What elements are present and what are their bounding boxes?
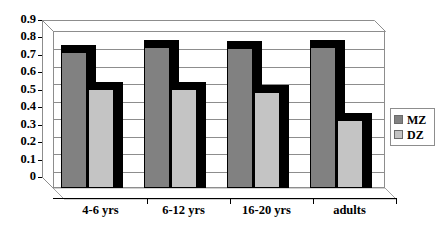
bar-dz-1: [88, 82, 114, 188]
y-axis-tick-label: 0.5: [2, 83, 36, 95]
y-axis-tick-label: 0.1: [2, 153, 36, 165]
x-axis-tick-label: adults: [305, 203, 395, 218]
y-axis-tick-label: 0.7: [2, 48, 36, 60]
legend-item-dz[interactable]: DZ: [394, 127, 431, 142]
bar-mz-3: [227, 41, 253, 188]
bar-top-cap: [337, 113, 363, 120]
bar-top-cap: [310, 40, 336, 47]
bar-mz-4: [310, 40, 336, 188]
y-axis-tick-label: 0.9: [2, 13, 36, 25]
bar-dz-4: [337, 113, 363, 188]
legend-swatch-mz: [394, 115, 403, 124]
bar-side: [280, 85, 289, 188]
bar-face: [144, 47, 170, 188]
bar-chart: 0.90.80.70.60.50.40.30.20.10 4-6 yrs6-12…: [0, 0, 443, 241]
y-axis-tick-label: 0: [2, 170, 36, 182]
x-axis-line: [53, 198, 397, 199]
bar-top-cap: [88, 82, 114, 89]
x-axis-tick-mark: [396, 198, 397, 204]
bar-face: [310, 47, 336, 188]
bar-dz-2: [171, 82, 197, 188]
bar-face: [171, 89, 197, 188]
legend[interactable]: MZ DZ: [390, 108, 435, 146]
legend-swatch-dz: [394, 130, 403, 139]
bar-face: [227, 48, 253, 188]
x-axis-tick-label: 6-12 yrs: [139, 203, 229, 218]
bar-side: [114, 82, 123, 188]
bar-top-cap: [61, 45, 87, 52]
legend-label-dz: DZ: [407, 129, 424, 141]
bar-face: [61, 52, 87, 188]
y-axis-tick-label: 0.3: [2, 118, 36, 130]
bar-top-cap: [144, 40, 170, 47]
y-axis-tick-label: 0.6: [2, 65, 36, 77]
bar-face: [337, 120, 363, 188]
bar-side: [363, 113, 372, 188]
y-axis-tick-label: 0.2: [2, 135, 36, 147]
legend-label-mz: MZ: [407, 114, 426, 126]
bar-top-cap: [254, 85, 280, 92]
bar-side: [197, 82, 206, 188]
y-axis-tick-label: 0.8: [2, 30, 36, 42]
bar-dz-3: [254, 85, 280, 188]
bar-face: [88, 89, 114, 188]
x-axis-tick-label: 4-6 yrs: [56, 203, 146, 218]
bar-top-cap: [227, 41, 253, 48]
x-axis-tick-label: 16-20 yrs: [222, 203, 312, 218]
bar-mz-2: [144, 40, 170, 188]
bar-top-cap: [171, 82, 197, 89]
bar-mz-1: [61, 45, 87, 188]
y-axis-tick-label: 0.4: [2, 100, 36, 112]
bar-face: [254, 92, 280, 188]
legend-item-mz[interactable]: MZ: [394, 112, 431, 127]
